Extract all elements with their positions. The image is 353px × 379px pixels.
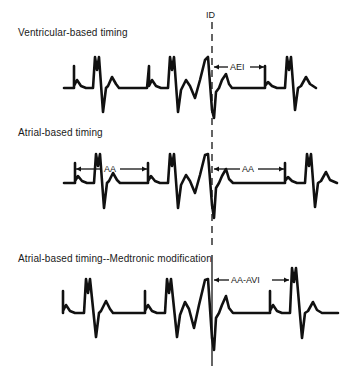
aei-label: AEI <box>230 62 245 72</box>
aa-label-1: AA <box>104 164 116 174</box>
aa-avi-interval: AA-AVI <box>214 275 289 285</box>
ecg-trace-atrial: AA AA <box>64 154 337 218</box>
ecg-trace-ventricular: AEI <box>64 57 316 118</box>
aei-interval: AEI <box>214 62 265 72</box>
aa-interval-2: AA <box>214 163 285 176</box>
aa-avi-label: AA-AVI <box>231 275 260 285</box>
id-marker-label: ID <box>206 10 216 20</box>
ecg-trace-medtronic: AA-AVI <box>63 268 338 350</box>
timing-diagram: ID AEI AA A <box>0 0 353 379</box>
aa-label-2: AA <box>242 164 254 174</box>
